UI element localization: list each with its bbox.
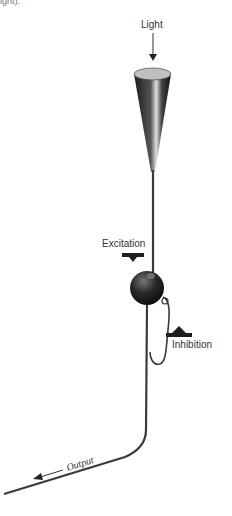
light-arrow-icon [149,33,157,61]
inhibition-loop [150,297,169,364]
excitation-label: Excitation [102,238,145,249]
output-arrow-icon [33,470,63,480]
light-label: Light [141,19,163,30]
inhibition-arrow-icon [166,326,192,337]
excitation-arrow-icon [122,253,144,262]
cell-body [130,271,164,305]
inhibition-label: Inhibition [172,339,212,350]
cone-outer-segment [134,68,171,172]
photoreceptor-diagram [0,0,232,516]
